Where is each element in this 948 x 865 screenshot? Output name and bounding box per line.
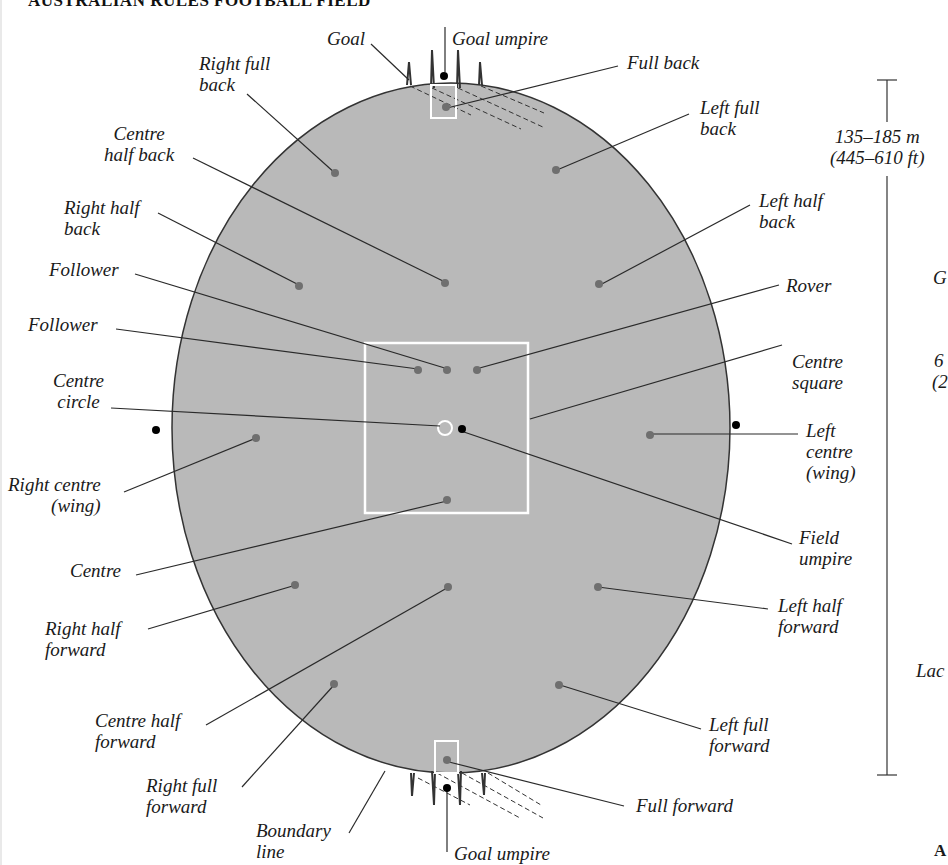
left-full-forward-dot: [555, 681, 563, 689]
right-half-back-dot: [295, 282, 303, 290]
centre-dot: [443, 496, 451, 504]
label-right-full-back: Right full back: [199, 53, 270, 95]
right-centre-dot: [252, 434, 260, 442]
clipped-text-g: G: [933, 267, 947, 288]
clipped-text-paren: (2: [932, 371, 948, 392]
label-full-back: Full back: [627, 52, 699, 73]
label-centre-half-back: Centre half back: [104, 123, 174, 165]
centre-half-back-dot: [441, 279, 449, 287]
label-right-half-back: Right half back: [64, 197, 139, 239]
follower-2-dot: [414, 366, 422, 374]
label-left-full-forward: Left full forward: [709, 714, 770, 756]
label-follower-2: Follower: [28, 314, 98, 335]
goal-umpire-top-dot: [440, 72, 448, 80]
full-back-dot: [442, 103, 450, 111]
label-field-umpire: Field umpire: [799, 527, 852, 569]
centre-half-forward-dot: [444, 583, 452, 591]
length-dimension-bar: [877, 80, 897, 775]
label-follower-1: Follower: [49, 259, 119, 280]
label-rover: Rover: [786, 275, 831, 296]
clipped-text-a: A: [934, 840, 946, 861]
label-centre-circle: Centre circle: [53, 370, 104, 412]
label-boundary-line: Boundary line: [256, 820, 331, 862]
rover-dot: [473, 366, 481, 374]
bottom-goal-square-lines: [418, 773, 543, 818]
right-half-forward-dot: [291, 581, 299, 589]
label-right-full-forward: Right full forward: [146, 775, 217, 817]
left-half-forward-dot: [594, 583, 602, 591]
left-half-back-dot: [595, 280, 603, 288]
label-field-length: 135–185 m (445–610 ft): [830, 126, 924, 168]
label-left-half-forward: Left half forward: [778, 595, 842, 637]
field-umpire-dot: [458, 425, 466, 433]
label-full-forward: Full forward: [636, 795, 733, 816]
label-goal-umpire-bottom: Goal umpire: [454, 843, 550, 864]
clipped-text-lac: Lac: [916, 660, 945, 681]
boundary-umpire-left-dot: [152, 426, 160, 434]
clipped-text-6: 6: [934, 350, 944, 371]
label-centre-half-forward: Centre half forward: [95, 710, 180, 752]
right-full-back-dot: [331, 169, 339, 177]
label-centre-square: Centre square: [792, 351, 843, 393]
label-centre: Centre: [70, 560, 121, 581]
label-goal: Goal: [327, 28, 365, 49]
full-forward-dot: [443, 756, 451, 764]
boundary-umpire-right-dot: [732, 421, 740, 429]
left-full-back-dot: [552, 166, 560, 174]
label-left-full-back: Left full back: [700, 97, 760, 139]
left-centre-dot: [646, 431, 654, 439]
label-right-centre-wing: Right centre (wing): [8, 474, 101, 516]
follower-1-dot: [443, 366, 451, 374]
label-left-half-back: Left half back: [759, 190, 823, 232]
label-right-half-forward: Right half forward: [45, 618, 120, 660]
label-goal-umpire-top: Goal umpire: [452, 28, 548, 49]
label-left-centre-wing: Left centre (wing): [806, 420, 856, 483]
goal-umpire-bottom-dot: [443, 784, 451, 792]
right-full-forward-dot: [330, 680, 338, 688]
